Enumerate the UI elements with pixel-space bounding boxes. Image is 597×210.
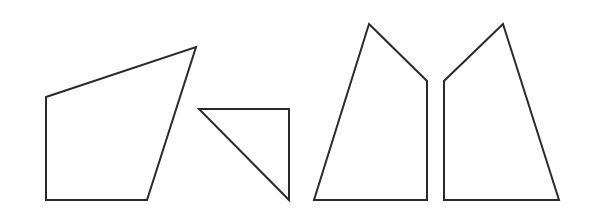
left-half-shape <box>314 24 427 200</box>
shapes-diagram <box>0 0 597 210</box>
right-half-shape <box>444 24 559 200</box>
right-triangle-shape <box>199 109 289 200</box>
quadrilateral-shape <box>46 47 196 200</box>
